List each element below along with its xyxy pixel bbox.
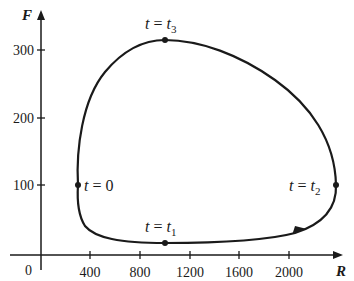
point-t1: [162, 240, 168, 246]
x-axis-arrow-icon: [333, 251, 343, 259]
x-tick-label-400: 400: [80, 265, 101, 280]
y-tick-label-100: 100: [13, 178, 34, 193]
y-axis-arrow-icon: [37, 10, 45, 20]
annotation-t0: t = 0: [84, 177, 113, 194]
annotation-t2: t = t2: [289, 177, 320, 197]
x-tick-label-1600: 1600: [225, 265, 253, 280]
point-t0: [75, 182, 81, 188]
x-tick-label-800: 800: [130, 265, 151, 280]
x-tick-label-2000: 2000: [275, 265, 303, 280]
annotation-t3: t = t3: [145, 15, 177, 35]
x-tick-label-1200: 1200: [176, 265, 204, 280]
origin-label: 0: [25, 263, 32, 278]
x-axis-title: R: [335, 263, 346, 279]
phase-plot: F 300 200 100 R 0 400 800 1200 1600 2000…: [0, 0, 354, 281]
point-t3: [162, 37, 168, 43]
trajectory-curve: [78, 40, 336, 243]
y-tick-label-200: 200: [13, 111, 34, 126]
point-t2: [333, 182, 339, 188]
annotation-t1: t = t1: [145, 218, 176, 238]
y-axis-title: F: [21, 7, 32, 23]
y-tick-label-300: 300: [13, 43, 34, 58]
